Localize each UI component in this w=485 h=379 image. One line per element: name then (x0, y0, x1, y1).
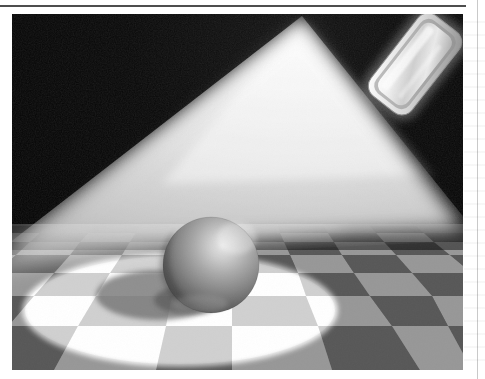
scene-canvas (12, 14, 463, 370)
raytraced-figure (12, 14, 463, 370)
page-top-rule (0, 5, 466, 7)
figure-page (0, 0, 485, 379)
scan-grain-overlay (12, 14, 463, 370)
margin-scan-noise (464, 10, 485, 370)
